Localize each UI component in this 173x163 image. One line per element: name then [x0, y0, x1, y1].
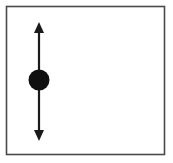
filled-circle-particle	[29, 70, 50, 91]
diagram-canvas	[0, 0, 173, 163]
figure-container: Vertical double-headed arrow through a f…	[0, 0, 173, 163]
